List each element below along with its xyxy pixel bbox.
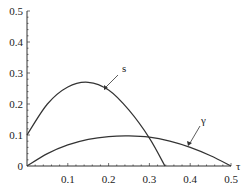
x-tick-label: 0.1	[61, 173, 75, 185]
series-line-gamma	[27, 136, 231, 166]
gamma-arrowhead-icon	[187, 141, 192, 146]
y-tick-label: 0	[18, 160, 24, 172]
y-tick-label: 0.5	[9, 5, 23, 17]
gamma-arrow	[190, 126, 200, 143]
x-tick-label: 0.4	[183, 173, 197, 185]
x-tick-label: 0.3	[143, 173, 157, 185]
chart: 0.10.20.30.40.500.10.20.30.40.5 s γ τ	[0, 0, 247, 189]
s-label: s	[122, 62, 126, 74]
x-tick-label: 0.5	[224, 173, 238, 185]
gamma-label: γ	[200, 114, 206, 126]
y-tick-label: 0.2	[9, 98, 23, 110]
axes	[27, 11, 231, 166]
x-axis-label: τ	[236, 160, 241, 172]
annotations: s γ τ	[104, 62, 241, 172]
s-arrow	[105, 75, 118, 88]
x-tick-label: 0.2	[102, 173, 116, 185]
y-tick-label: 0.4	[9, 36, 23, 48]
ticks: 0.10.20.30.40.500.10.20.30.40.5	[9, 5, 238, 185]
y-tick-label: 0.1	[9, 129, 23, 141]
y-tick-label: 0.3	[9, 67, 23, 79]
